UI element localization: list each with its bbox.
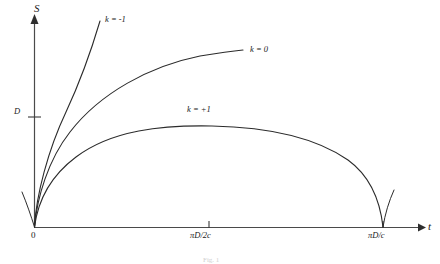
y-tick-label-D: D	[14, 106, 20, 116]
x-axis-label: t	[428, 220, 431, 232]
y-axis-arrowhead	[31, 14, 39, 24]
curve-k-plus-1	[35, 126, 384, 227]
figure-container: S t D 0 πD/2c πD/c k = -1 k = 0 k = +1 F…	[0, 0, 440, 264]
x-tick-label-half-period: πD/2c	[190, 230, 211, 240]
curve-k-0	[35, 50, 244, 227]
curve-label-k-minus-1: k = -1	[105, 14, 126, 24]
cusp-stroke-recollapse	[383, 190, 394, 227]
curve-label-k-plus-1: k = +1	[187, 104, 211, 114]
figure-caption: Fig. 1	[203, 256, 219, 264]
y-axis-label: S	[34, 2, 40, 14]
origin-label: 0	[31, 230, 36, 240]
curve-label-k-0: k = 0	[250, 44, 268, 54]
x-tick-label-full-period: πD/c	[368, 230, 385, 240]
x-axis-arrowhead	[418, 224, 426, 232]
cusp-stroke-origin	[22, 192, 35, 227]
plot-canvas	[0, 0, 440, 264]
curve-k-minus-1	[35, 21, 101, 227]
